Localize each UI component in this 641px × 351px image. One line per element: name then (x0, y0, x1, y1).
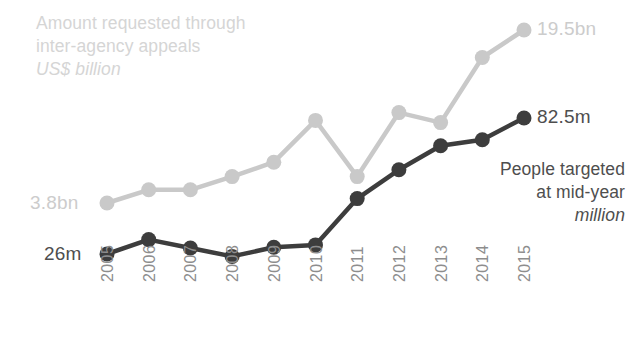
x-axis-tick-label-text: 2011 (349, 246, 367, 282)
x-axis-tick-label-text: 2007 (182, 245, 200, 282)
x-axis-tick-label-text: 2015 (516, 245, 534, 282)
x-axis-tick-label-text: 2012 (391, 245, 409, 282)
x-axis-tick-label-text: 2008 (224, 245, 242, 282)
x-axis-tick-label-text: 2010 (308, 245, 326, 282)
x-axis-tick-label-text: 2014 (474, 245, 492, 282)
x-axis-tick-label-text: 2009 (266, 245, 284, 282)
x-axis-tick-label-text: 2013 (433, 245, 451, 282)
x-axis-tick-label-text: 2006 (141, 245, 159, 282)
x-axis-tick-label-text: 2005 (99, 245, 117, 282)
chart-container: Amount requested through inter-agency ap… (0, 0, 641, 351)
x-axis-tick-labels: 2005200620072008200920102011201220132014… (0, 0, 641, 351)
